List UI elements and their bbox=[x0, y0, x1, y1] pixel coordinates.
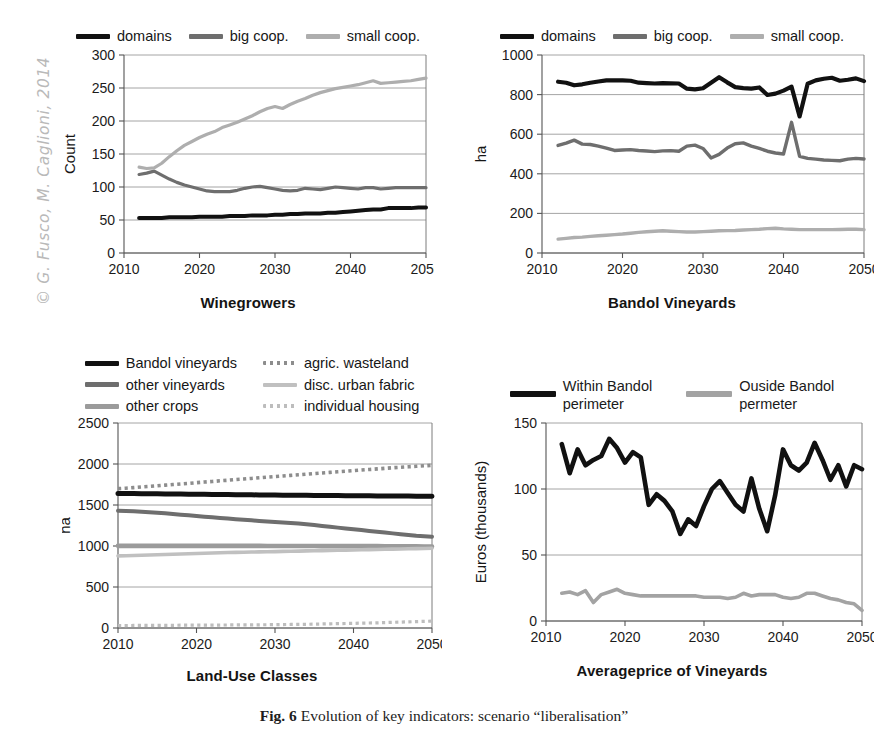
chart-panel-bandol-vineyards: domains big coop. small coop. 0200400600… bbox=[470, 28, 874, 340]
legend-item: individual housing bbox=[263, 398, 419, 415]
legend-swatch-domains bbox=[500, 34, 534, 39]
legend-swatch-other-crops bbox=[85, 404, 119, 409]
svg-text:100: 100 bbox=[514, 481, 538, 497]
chart-xtitle-bandol-vineyards: Bandol Vineyards bbox=[470, 294, 874, 311]
svg-text:2030: 2030 bbox=[259, 261, 290, 277]
legend-swatch-within-bandol bbox=[510, 391, 556, 397]
series-small-coop- bbox=[139, 78, 426, 168]
svg-text:0: 0 bbox=[529, 613, 537, 629]
svg-text:2010: 2010 bbox=[526, 261, 557, 277]
figure-page: © G. Fusco, M. Caglioni, 2014 domains bi… bbox=[0, 0, 888, 737]
svg-text:2010: 2010 bbox=[108, 261, 139, 277]
legend-swatch-other-vineyards bbox=[85, 382, 119, 387]
svg-text:2050: 2050 bbox=[846, 629, 874, 645]
legend-label: other crops bbox=[126, 398, 199, 415]
legend-label: agric. wasteland bbox=[304, 355, 409, 372]
svg-text:Euros (thousands): Euros (thousands) bbox=[472, 461, 489, 584]
series-domains bbox=[139, 207, 426, 218]
legend-item: agric. wasteland bbox=[263, 355, 419, 372]
legend-item: small coop. bbox=[730, 28, 844, 45]
series-other-vineyards bbox=[118, 510, 432, 536]
svg-text:2500: 2500 bbox=[78, 415, 109, 431]
plot-area-bandol-vineyards: 0200400600800100020102020203020402050ha bbox=[470, 45, 874, 285]
svg-text:250: 250 bbox=[92, 80, 116, 96]
svg-text:2020: 2020 bbox=[181, 636, 212, 652]
legend-label: domains bbox=[541, 28, 596, 45]
svg-text:2030: 2030 bbox=[259, 636, 290, 652]
legend-label: other vineyards bbox=[126, 377, 225, 394]
svg-text:2000: 2000 bbox=[78, 456, 109, 472]
svg-text:2020: 2020 bbox=[609, 629, 640, 645]
figure-caption-body: Evolution of key indicators: scenario “l… bbox=[301, 707, 629, 724]
figure-caption: Fig. 6 Evolution of key indicators: scen… bbox=[0, 707, 888, 725]
legend-label: Ouside Bandol permeter bbox=[739, 378, 834, 413]
legend-swatch-small-coop bbox=[730, 34, 764, 39]
svg-text:500: 500 bbox=[86, 579, 110, 595]
svg-text:2040: 2040 bbox=[335, 261, 366, 277]
svg-text:300: 300 bbox=[92, 47, 116, 63]
svg-text:400: 400 bbox=[510, 165, 534, 181]
svg-text:800: 800 bbox=[510, 86, 534, 102]
svg-text:2030: 2030 bbox=[688, 629, 719, 645]
series-small-coop- bbox=[558, 228, 864, 239]
legend-item: big coop. bbox=[189, 28, 289, 45]
legend-item: disc. urban fabric bbox=[263, 377, 419, 394]
plot-area-land-use-classes: 0500100015002000250020102020203020402050… bbox=[62, 415, 442, 660]
svg-text:1500: 1500 bbox=[78, 497, 109, 513]
legend-label: individual housing bbox=[304, 398, 419, 415]
chart-svg-land-use-classes: 0500100015002000250020102020203020402050… bbox=[62, 415, 442, 660]
legend-label: small coop. bbox=[347, 28, 420, 45]
legend-winegrowers: domains big coop. small coop. bbox=[62, 28, 434, 45]
series-disc-urban-fabric bbox=[118, 548, 432, 556]
svg-text:2020: 2020 bbox=[607, 261, 638, 277]
chart-panel-land-use-classes: Bandol vineyards agric. wasteland other … bbox=[62, 355, 442, 700]
svg-text:100: 100 bbox=[92, 179, 116, 195]
legend-land-use-classes: Bandol vineyards agric. wasteland other … bbox=[62, 355, 442, 415]
legend-label: disc. urban fabric bbox=[304, 377, 414, 394]
svg-text:0: 0 bbox=[107, 245, 115, 261]
svg-text:2040: 2040 bbox=[768, 261, 799, 277]
svg-text:2040: 2040 bbox=[338, 636, 369, 652]
svg-text:2020: 2020 bbox=[184, 261, 215, 277]
legend-label: big coop. bbox=[654, 28, 713, 45]
svg-text:2050: 2050 bbox=[416, 636, 442, 652]
svg-text:2050: 2050 bbox=[848, 261, 874, 277]
svg-text:1000: 1000 bbox=[502, 47, 533, 63]
chart-xtitle-land-use-classes: Land-Use Classes bbox=[62, 667, 442, 684]
legend-item: other crops bbox=[85, 398, 237, 415]
legend-label-line1: Within Bandol bbox=[563, 378, 652, 394]
svg-text:ha: ha bbox=[472, 145, 489, 162]
legend-swatch-agric-wasteland bbox=[263, 361, 297, 365]
legend-label: small coop. bbox=[771, 28, 844, 45]
series-within-bandol-perimeter bbox=[562, 439, 862, 534]
legend-swatch-small-coop bbox=[306, 34, 340, 39]
legend-item: domains bbox=[500, 28, 596, 45]
series-big-coop- bbox=[139, 171, 426, 191]
legend-item: small coop. bbox=[306, 28, 420, 45]
legend-label: Bandol vineyards bbox=[126, 355, 237, 372]
legend-swatch-domains bbox=[76, 34, 110, 39]
plot-area-average-price: 05010015020102020203020402050Euros (thou… bbox=[470, 413, 874, 653]
svg-text:50: 50 bbox=[521, 547, 537, 563]
legend-item: big coop. bbox=[613, 28, 713, 45]
svg-text:Count: Count bbox=[62, 133, 78, 174]
svg-text:1000: 1000 bbox=[78, 538, 109, 554]
chart-svg-average-price: 05010015020102020203020402050Euros (thou… bbox=[470, 413, 874, 653]
legend-swatch-big-coop bbox=[189, 34, 223, 39]
series-ouside-bandol-permeter bbox=[562, 590, 862, 611]
legend-average-price: Within Bandol perimeter Ouside Bandol pe… bbox=[470, 378, 874, 413]
legend-swatch-big-coop bbox=[613, 34, 647, 39]
svg-text:150: 150 bbox=[514, 415, 538, 431]
svg-text:600: 600 bbox=[510, 126, 534, 142]
series-agric-wasteland bbox=[118, 465, 432, 488]
legend-swatch-bandol-vineyards bbox=[85, 361, 119, 366]
svg-text:2010: 2010 bbox=[530, 629, 561, 645]
series-bandol-vineyards bbox=[118, 493, 432, 496]
legend-bandol-vineyards: domains big coop. small coop. bbox=[470, 28, 874, 45]
svg-text:0: 0 bbox=[101, 620, 109, 636]
legend-label-line1: Ouside Bandol bbox=[739, 378, 834, 394]
legend-label-line2: permeter bbox=[739, 396, 797, 412]
legend-item: other vineyards bbox=[85, 377, 237, 394]
svg-text:200: 200 bbox=[510, 205, 534, 221]
plot-area-winegrowers: 05010015020025030020102020203020402050Co… bbox=[62, 45, 434, 285]
